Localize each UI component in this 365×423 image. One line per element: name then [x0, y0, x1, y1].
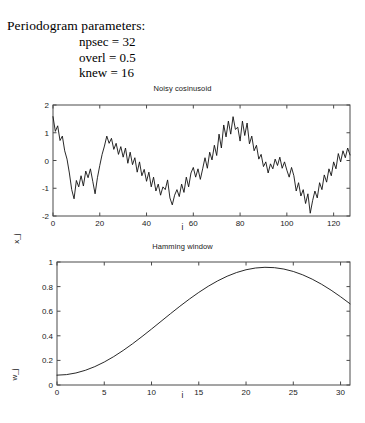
svg-text:2: 2 [45, 101, 50, 110]
svg-text:5: 5 [102, 388, 107, 397]
svg-text:0.8: 0.8 [42, 283, 54, 292]
svg-text:100: 100 [280, 219, 294, 228]
svg-text:25: 25 [289, 388, 298, 397]
parameter-npsec: npsec = 32 [7, 34, 337, 50]
periodogram-parameters-block: Periodogram parameters: npsec = 32 overl… [7, 18, 337, 81]
svg-text:120: 120 [327, 219, 341, 228]
chart-hamming-window: Hamming window w_j i 05101520253000.20.4… [0, 240, 365, 423]
parameters-title: Periodogram parameters: [7, 18, 337, 34]
figure-page: Periodogram parameters: npsec = 32 overl… [0, 0, 365, 423]
parameter-overl: overl = 0.5 [7, 50, 337, 66]
svg-text:30: 30 [336, 388, 345, 397]
parameters-list: npsec = 32 overl = 0.5 knew = 16 [7, 34, 337, 81]
svg-text:0: 0 [55, 388, 60, 397]
svg-text:15: 15 [194, 388, 203, 397]
plot-area-noisy: 020406080100120-2-1012 [0, 84, 365, 232]
svg-text:0.4: 0.4 [42, 332, 54, 341]
svg-text:1: 1 [49, 258, 54, 267]
chart-noisy-cosinusoid: Noisy cosinusoid x_j i 020406080100120-2… [0, 84, 365, 232]
svg-text:0.2: 0.2 [42, 356, 54, 365]
svg-text:0.6: 0.6 [42, 307, 54, 316]
parameter-knew: knew = 16 [7, 65, 337, 81]
svg-text:10: 10 [147, 388, 156, 397]
svg-text:40: 40 [142, 219, 151, 228]
svg-text:0: 0 [49, 381, 54, 390]
svg-text:80: 80 [236, 219, 245, 228]
svg-text:60: 60 [189, 219, 198, 228]
svg-text:-2: -2 [42, 212, 50, 221]
svg-text:20: 20 [242, 388, 251, 397]
svg-text:0: 0 [45, 157, 50, 166]
svg-text:1: 1 [45, 129, 50, 138]
svg-text:-1: -1 [42, 184, 50, 193]
svg-text:0: 0 [51, 219, 56, 228]
plot-area-hamming: 05101520253000.20.40.60.81 [0, 240, 365, 423]
svg-text:20: 20 [95, 219, 104, 228]
